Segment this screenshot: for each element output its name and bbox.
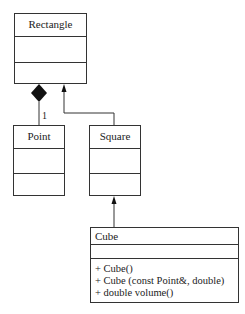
multiplicity-label: 1 (42, 110, 47, 121)
class-name: Square (90, 129, 140, 143)
attributes-section (14, 148, 64, 149)
class-name: Point (14, 129, 64, 143)
attributes-section (91, 244, 238, 245)
class-square: Square (89, 125, 141, 196)
inheritance-arrow-icon (62, 84, 67, 92)
operation: + double volume() (95, 287, 173, 300)
class-name: Cube (95, 229, 238, 243)
class-rectangle: Rectangle (14, 13, 87, 84)
operations-section (15, 62, 86, 63)
attributes-section (90, 148, 140, 149)
operations-section (90, 173, 140, 174)
operation: + Cube() (95, 263, 133, 276)
operations-section (91, 258, 238, 259)
class-point: Point (13, 125, 65, 196)
operations-section (14, 173, 64, 174)
class-name: Rectangle (15, 17, 86, 31)
attributes-section (15, 36, 86, 37)
inheritance-arrow-icon (112, 196, 117, 204)
composition-diamond-icon (31, 84, 47, 102)
operation: + Cube (const Point&, double) (95, 275, 224, 288)
class-cube: Cube + Cube() + Cube (const Point&, doub… (90, 227, 239, 303)
